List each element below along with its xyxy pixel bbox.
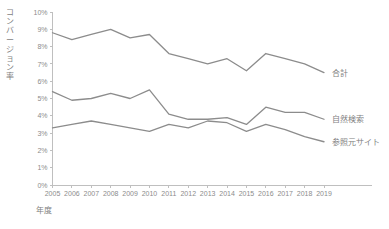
x-axis-ticks: 2005200620072008200920102011201220132014… [45, 185, 332, 197]
series-lines [53, 29, 325, 141]
x-tick-label: 2018 [297, 190, 313, 197]
y-tick-label: 5% [37, 95, 47, 102]
x-tick-label: 2006 [64, 190, 80, 197]
series-line [53, 90, 325, 125]
y-tick-label: 8% [37, 43, 47, 50]
x-tick-label: 2007 [83, 190, 99, 197]
x-tick-label: 2014 [219, 190, 235, 197]
series-legend-labels: 合計自然検索参照元サイト [332, 68, 380, 147]
y-tick-label: 9% [37, 26, 47, 33]
x-tick-label: 2008 [103, 190, 119, 197]
y-tick-label: 7% [37, 61, 47, 68]
x-tick-label: 2012 [180, 190, 196, 197]
x-tick-label: 2015 [239, 190, 255, 197]
series-line [53, 121, 325, 142]
x-tick-label: 2016 [258, 190, 274, 197]
x-tick-label: 2011 [161, 190, 176, 197]
chart-canvas: 0%1%2%3%4%5%6%7%8%9%10% 2005200620072008… [0, 0, 389, 229]
y-tick-label: 1% [37, 164, 47, 171]
y-tick-label: 2% [37, 147, 47, 154]
y-tick-label: 0% [37, 182, 47, 189]
y-tick-label: 4% [37, 112, 47, 119]
x-tick-label: 2005 [45, 190, 61, 197]
series-line [53, 29, 325, 72]
y-tick-label: 6% [37, 78, 47, 85]
conversion-rate-line-chart: コンバージョン率 0%1%2%3%4%5%6%7%8%9%10% 2005200… [0, 0, 389, 229]
x-tick-label: 2013 [200, 190, 216, 197]
series-label: 自然検索 [332, 114, 364, 124]
y-axis-ticks: 0%1%2%3%4%5%6%7%8%9%10% [33, 9, 52, 189]
x-tick-label: 2009 [122, 190, 138, 197]
x-tick-label: 2019 [316, 190, 332, 197]
series-label: 合計 [332, 68, 348, 78]
series-label: 参照元サイト [332, 137, 380, 147]
y-tick-label: 10% [33, 9, 47, 16]
x-tick-label: 2010 [142, 190, 158, 197]
x-tick-label: 2017 [277, 190, 293, 197]
x-axis-title: 年度 [36, 205, 52, 215]
y-tick-label: 3% [37, 130, 47, 137]
